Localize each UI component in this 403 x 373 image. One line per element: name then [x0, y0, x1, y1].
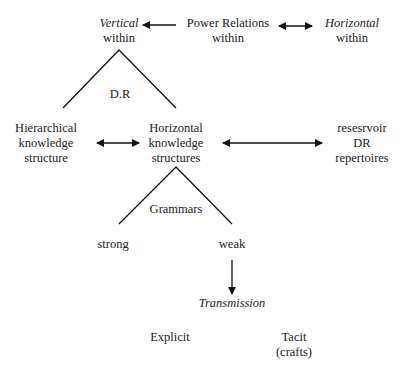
- vertical-node: Vertical within: [100, 16, 139, 46]
- tacit-line1: Tacit: [276, 330, 312, 345]
- strong-node: strong: [97, 237, 128, 252]
- grammars-label: Grammars: [150, 202, 203, 217]
- weak-node: weak: [219, 237, 245, 252]
- transmission-node: Transmission: [199, 296, 266, 311]
- hierarchical-line2: knowledge: [15, 136, 77, 151]
- vertical-label: Vertical: [100, 16, 139, 31]
- power-relations-node: Power Relations within: [187, 16, 269, 46]
- horizontal-within-label: Horizontal: [325, 16, 379, 31]
- hierarchical-line1: Hierarchical: [15, 121, 77, 136]
- knowledge-structure-diagram: Vertical within Power Relations within H…: [0, 0, 403, 373]
- vertical-sublabel: within: [100, 31, 139, 46]
- horizontal-within-sublabel: within: [325, 31, 379, 46]
- hierarchical-line3: structure: [15, 151, 77, 166]
- tacit-line2: (crafts): [276, 345, 312, 360]
- explicit-node: Explicit: [150, 330, 190, 345]
- horizontal-ks-line3: structures: [149, 151, 204, 166]
- horizontal-ks-line1: Horizontal: [149, 121, 204, 136]
- horizontal-knowledge-node: Horizontal knowledge structures: [149, 121, 204, 166]
- horizontal-within-node: Horizontal within: [325, 16, 379, 46]
- reservoir-node: resesrvoir DR repertoires: [335, 121, 388, 166]
- power-relations-sublabel: within: [187, 31, 269, 46]
- reservoir-line3: repertoires: [335, 151, 388, 166]
- horizontal-ks-line2: knowledge: [149, 136, 204, 151]
- hierarchical-node: Hierarchical knowledge structure: [15, 121, 77, 166]
- tacit-node: Tacit (crafts): [276, 330, 312, 360]
- reservoir-line2: DR: [335, 136, 388, 151]
- reservoir-line1: resesrvoir: [335, 121, 388, 136]
- power-relations-label: Power Relations: [187, 16, 269, 31]
- connectors: [0, 0, 403, 373]
- dr-label: D.R: [110, 87, 131, 102]
